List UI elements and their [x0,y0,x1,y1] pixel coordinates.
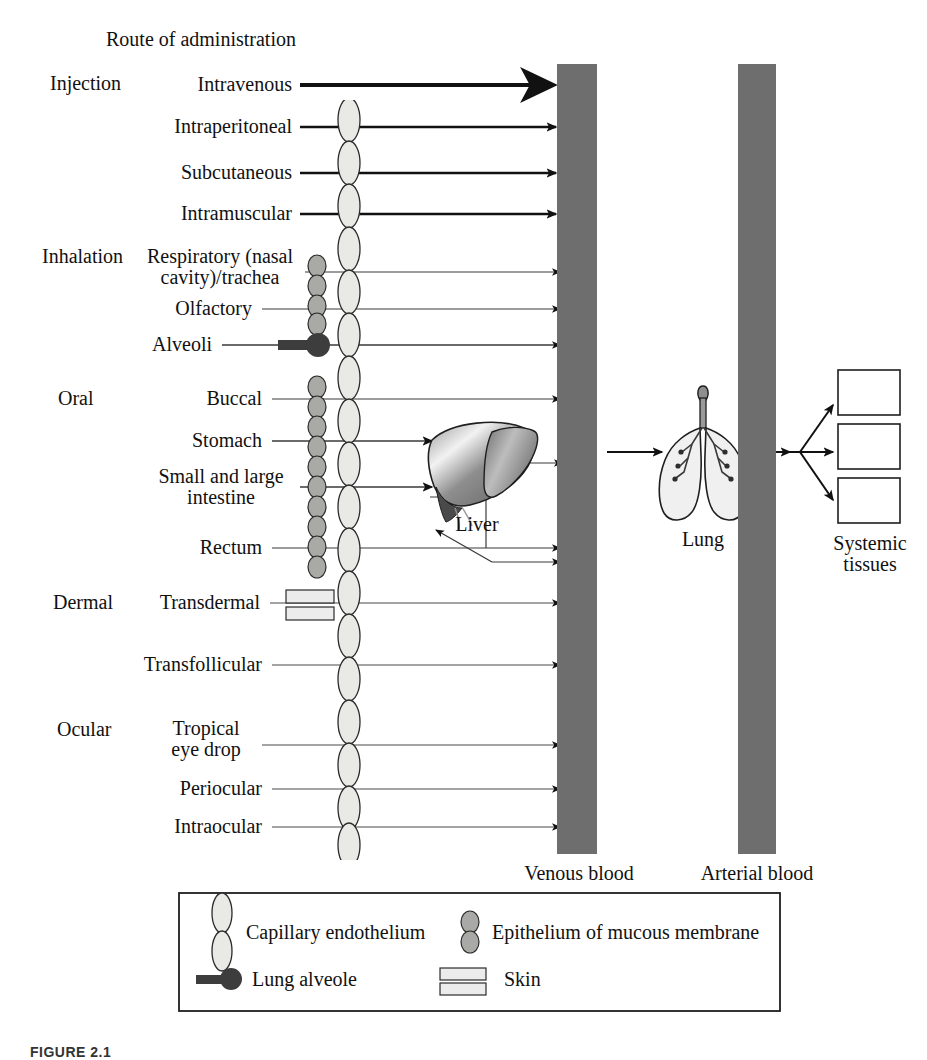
route-label-intramuscular: Intramuscular [100,202,292,224]
arterial-blood-column [738,64,776,854]
venous-blood-label: Venous blood [485,862,673,884]
epithelium-respiratory-chain [308,255,326,335]
systemic-tissues-label: Systemic tissues [824,533,916,575]
category-inhalation: Inhalation [42,245,123,267]
route-label-respiratory: Respiratory (nasal cavity)/trachea [142,246,298,288]
route-label-transfollicular: Transfollicular [100,653,262,675]
category-ocular: Ocular [57,718,111,740]
figure-title: Route of administration [106,28,296,50]
route-label-transdermal: Transdermal [100,591,260,613]
systemic-tissue-box [838,370,900,415]
route-label-eyedrop: Tropical eye drop [158,718,254,760]
route-label-subcutaneous: Subcutaneous [100,161,292,183]
route-label-alveoli: Alveoli [100,333,212,355]
route-label-buccal: Buccal [100,387,262,409]
capillary-endothelium-column [338,98,360,867]
route-label-intravenous: Intravenous [100,73,292,95]
route-label-stomach: Stomach [100,429,262,451]
liver-label: Liver [432,513,522,535]
systemic-tissue-box [838,424,900,469]
lung-label: Lung [658,528,748,550]
route-label-intraocular: Intraocular [100,815,262,837]
route-label-rectum: Rectum [100,536,262,558]
systemic-fan-arrows [800,405,833,500]
arterial-blood-label: Arterial blood [663,862,851,884]
legend-label-capillary: Capillary endothelium [246,921,425,943]
skin-icon [286,590,334,620]
category-oral: Oral [58,387,94,409]
legend-label-epithelium: Epithelium of mucous membrane [492,921,759,943]
route-label-olfactory: Olfactory [100,297,252,319]
route-label-periocular: Periocular [100,777,262,799]
lung-illustration [659,386,747,520]
lung-alveole-icon [278,333,330,357]
legend-label-alveole: Lung alveole [252,968,357,990]
systemic-tissue-boxes [838,370,900,523]
systemic-tissue-box [838,478,900,523]
legend-label-skin: Skin [504,968,541,990]
venous-blood-column [557,64,597,854]
epithelium-oral-chain [308,376,326,578]
route-label-intraperitoneal: Intraperitoneal [100,115,292,137]
route-label-intestine: Small and large intestine [146,466,296,508]
figure-caption: FIGURE 2.1 [30,1044,111,1060]
